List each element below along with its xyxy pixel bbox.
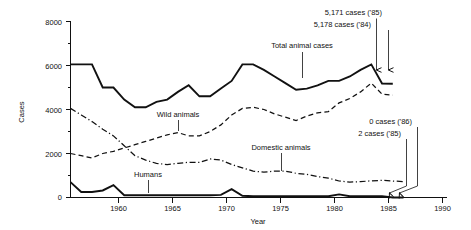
x-tick-labels: 1960 1965 1970 1975 1980 1985 1990 [110, 204, 451, 213]
annotation-0-cases-86: 0 cases ('86) [369, 117, 412, 126]
series-group [71, 64, 404, 197]
series-domestic-animals [71, 108, 404, 182]
rabies-cases-line-chart: 0 2000 4000 6000 8000 1960 1965 1970 197… [0, 0, 471, 230]
x-tick-label-1960: 1960 [110, 204, 127, 213]
label-domestic-animals: Domestic animals [251, 143, 310, 152]
y-tick-label-6000: 6000 [45, 62, 62, 71]
arrow-to-1986-humans [400, 127, 418, 193]
x-tick-label-1970: 1970 [218, 204, 235, 213]
x-axis-title: Year [250, 217, 266, 226]
y-tick-labels: 0 2000 4000 6000 8000 [45, 18, 62, 203]
annotation-bottom-right-group: 0 cases ('86) 2 cases ('85) [358, 117, 417, 193]
annotation-5171-cases-85: 5,171 cases ('85) [325, 8, 383, 17]
x-tick-label-1985: 1985 [380, 204, 397, 213]
y-axis-title: Cases [17, 101, 26, 123]
x-tick-label-1990: 1990 [434, 204, 451, 213]
y-tick-label-4000: 4000 [45, 106, 62, 115]
y-tick-label-8000: 8000 [45, 18, 62, 27]
series-humans [71, 182, 404, 197]
x-tick-label-1965: 1965 [164, 204, 181, 213]
chart-container: 0 2000 4000 6000 8000 1960 1965 1970 197… [0, 0, 471, 230]
y-tick-label-0: 0 [58, 193, 62, 202]
annotation-top-right-group: 5,171 cases ('85) 5,178 cases ('84) [314, 8, 389, 70]
label-humans: Humans [134, 170, 162, 179]
x-tick-label-1975: 1975 [272, 204, 289, 213]
axes-group [66, 21, 447, 203]
x-tick-label-1980: 1980 [326, 204, 343, 213]
label-total-animal-cases: Total animal cases [271, 41, 333, 50]
annotation-2-cases-85: 2 cases ('85) [358, 129, 401, 138]
annotation-5178-cases-84: 5,178 cases ('84) [314, 20, 372, 29]
arrow-to-1985-humans [390, 139, 407, 193]
series-total-animal-cases [71, 64, 393, 107]
y-tick-label-2000: 2000 [45, 150, 62, 159]
label-wild-animals: Wild animals [157, 110, 200, 119]
